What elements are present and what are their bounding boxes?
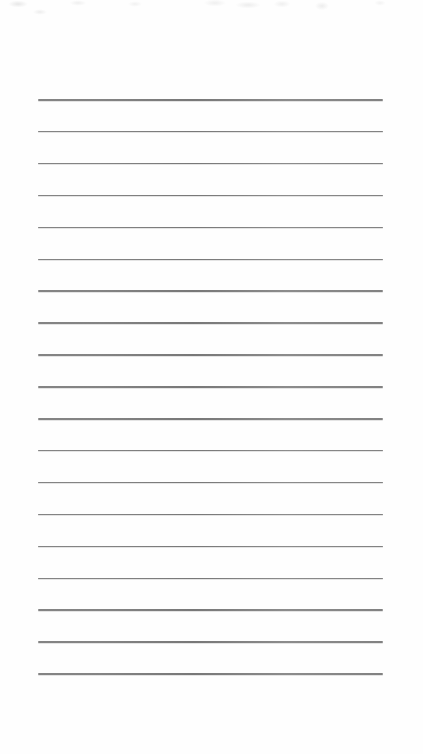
ruled-line xyxy=(38,673,383,675)
ruled-line xyxy=(38,546,383,548)
ruled-line xyxy=(38,227,383,229)
lined-paper-page xyxy=(0,0,423,754)
ruled-line xyxy=(38,450,383,452)
ruled-lines-container xyxy=(0,0,423,754)
ruled-line xyxy=(38,131,383,133)
ruled-line xyxy=(38,195,383,197)
ruled-line xyxy=(38,482,383,484)
ruled-line xyxy=(38,641,383,643)
ruled-line xyxy=(38,322,383,324)
ruled-line xyxy=(38,386,383,388)
ruled-line xyxy=(38,609,383,611)
ruled-line xyxy=(38,259,383,261)
ruled-line xyxy=(38,99,383,101)
ruled-line xyxy=(38,514,383,516)
ruled-line xyxy=(38,578,383,580)
ruled-line xyxy=(38,354,383,356)
ruled-line xyxy=(38,290,383,292)
ruled-line xyxy=(38,163,383,165)
ruled-line xyxy=(38,418,383,420)
